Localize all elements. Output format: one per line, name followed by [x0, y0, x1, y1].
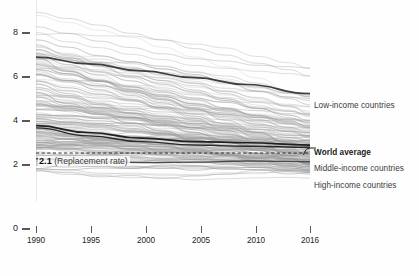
y-tick-mark-0 — [22, 228, 30, 230]
annotation-world-average: World average — [314, 148, 371, 157]
annotation-high-income-countries: High-income countries — [314, 181, 397, 190]
x-tick-mark-2000 — [146, 226, 147, 233]
x-tick-label-2000: 2000 — [126, 236, 166, 245]
x-tick-mark-2010 — [256, 226, 257, 233]
y-tick-mark-6 — [22, 76, 30, 78]
x-tick-label-2016: 2016 — [290, 236, 330, 245]
y-tick-mark-4 — [22, 120, 30, 122]
country-trajectory — [36, 27, 310, 68]
annotation-middle-income-countries: Middle-income countries — [314, 164, 404, 173]
x-tick-label-1990: 1990 — [16, 236, 56, 245]
annotation-low-income-countries: Low-income countries — [314, 101, 395, 110]
y-tick-label-0: 0 — [2, 223, 18, 233]
chart-container: 8 6 4 2 0 1990 1995 2000 2005 2010 2016 … — [0, 0, 419, 276]
y-tick-label-2: 2 — [2, 159, 18, 169]
x-tick-mark-2005 — [201, 226, 202, 233]
country-trajectory — [36, 40, 310, 97]
y-tick-mark-2 — [22, 164, 30, 166]
y-tick-label-4: 4 — [2, 115, 18, 125]
x-tick-label-1995: 1995 — [71, 236, 111, 245]
x-tick-mark-2016 — [310, 226, 311, 233]
y-tick-mark-8 — [22, 32, 30, 34]
x-tick-mark-1990 — [36, 226, 37, 233]
x-tick-label-2005: 2005 — [181, 236, 221, 245]
y-tick-label-6: 6 — [2, 71, 18, 81]
y-tick-label-8: 8 — [2, 27, 18, 37]
chart-svg — [36, 0, 310, 201]
x-tick-label-2010: 2010 — [236, 236, 276, 245]
x-tick-mark-1995 — [91, 226, 92, 233]
country-trajectories — [36, 12, 310, 179]
replacement-rate-text: (Replacement rate) — [54, 156, 128, 166]
replacement-rate-callout: 2.1 (Replacement rate) — [38, 156, 130, 166]
replacement-rate-value: 2.1 — [39, 156, 52, 166]
plot-area — [36, 0, 310, 201]
